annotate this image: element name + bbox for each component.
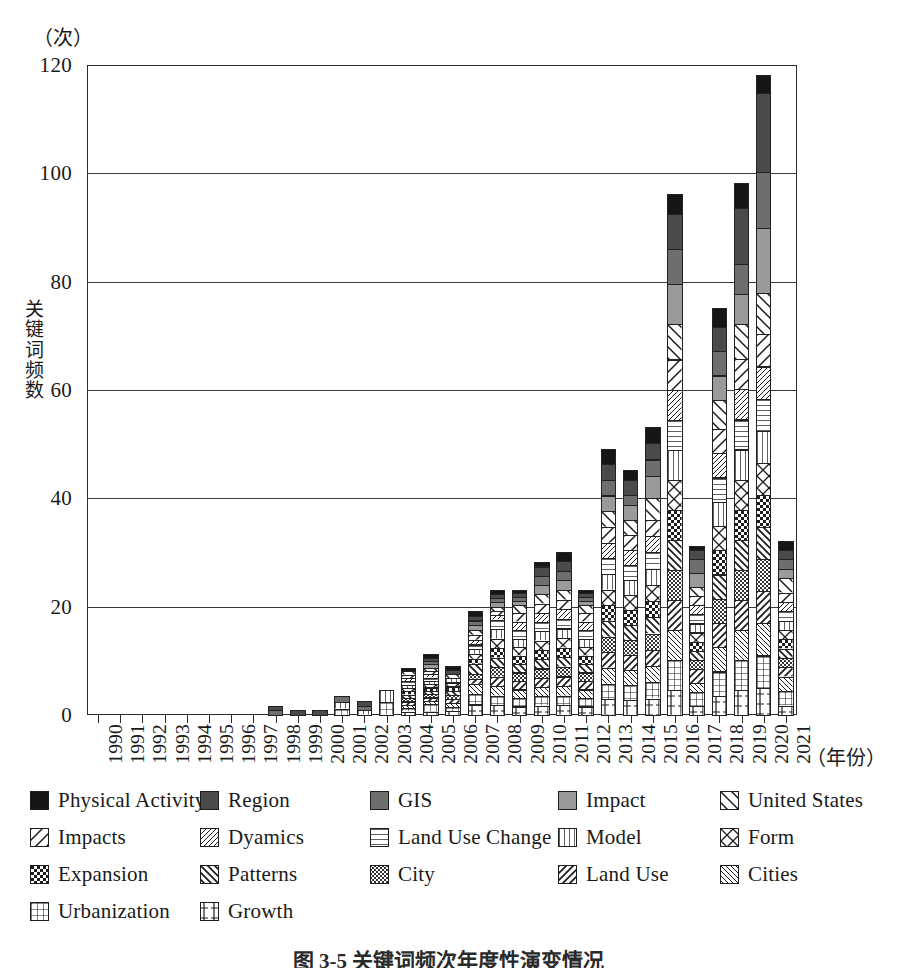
y-tick-label: 20 xyxy=(50,594,72,619)
legend-label: Dyamics xyxy=(228,825,304,850)
legend-item-city[interactable]: City xyxy=(370,862,435,887)
bar-segment xyxy=(667,360,683,391)
x-tick-label: 2013 xyxy=(615,724,637,764)
bar-segment xyxy=(667,570,683,601)
x-tick-label: 2009 xyxy=(527,724,549,764)
legend-label: Land Use Change xyxy=(398,825,551,850)
bar-segment xyxy=(645,460,661,477)
x-tick-label: 1994 xyxy=(194,724,216,764)
bar-segment xyxy=(645,476,661,499)
bar-2021 xyxy=(778,525,794,715)
bar-2015 xyxy=(645,412,661,715)
bar-segment xyxy=(712,429,728,454)
x-tick-label: 2004 xyxy=(416,724,438,764)
x-tick-mark xyxy=(675,715,676,723)
bar-segment xyxy=(601,464,617,481)
x-tick-label: 2000 xyxy=(327,724,349,764)
legend-item-expansion[interactable]: Expansion xyxy=(30,862,148,887)
legend-item-cities[interactable]: Cities xyxy=(720,862,798,887)
legend-item-patterns[interactable]: Patterns xyxy=(200,862,297,887)
legend-label: Growth xyxy=(228,899,293,924)
x-tick-mark xyxy=(764,715,765,723)
bar-segment xyxy=(689,692,705,707)
bar-segment xyxy=(601,668,617,685)
bar-2013 xyxy=(601,433,617,715)
bar-segment xyxy=(623,565,639,581)
legend-item-urbanization[interactable]: Urbanization xyxy=(30,899,170,924)
bar-segment xyxy=(645,699,661,716)
bar-2001 xyxy=(334,693,350,715)
legend-row: ExpansionPatternsCityLand UseCities xyxy=(30,856,870,893)
legend-item-land-use-change[interactable]: Land Use Change xyxy=(370,825,551,850)
plot-area xyxy=(87,65,797,715)
y-tick-label: 0 xyxy=(61,703,72,728)
legend-item-region[interactable]: Region xyxy=(200,788,290,813)
bars-layer xyxy=(87,65,797,715)
legend-swatch-icon xyxy=(720,791,739,810)
bar-segment xyxy=(601,480,617,497)
legend-item-united-states[interactable]: United States xyxy=(720,788,863,813)
bar-segment xyxy=(756,75,772,94)
bar-segment xyxy=(379,690,395,704)
legend-swatch-icon xyxy=(30,865,49,884)
bar-segment xyxy=(734,630,750,661)
bar-segment xyxy=(712,550,728,575)
legend-label: Region xyxy=(228,788,290,813)
legend-label: United States xyxy=(748,788,863,813)
x-tick-mark xyxy=(564,715,565,723)
x-tick-mark xyxy=(187,715,188,723)
x-tick-mark xyxy=(475,715,476,723)
x-tick-mark xyxy=(453,715,454,723)
bar-segment xyxy=(601,527,617,544)
legend-item-impact[interactable]: Impact xyxy=(558,788,646,813)
bar-segment xyxy=(756,293,772,335)
bar-2010 xyxy=(534,547,550,715)
x-tick-mark xyxy=(431,715,432,723)
x-tick-mark xyxy=(719,715,720,723)
figure-caption: 图 3-5 关键词频次年度性演变情况 xyxy=(0,944,897,968)
bar-2002 xyxy=(357,699,373,715)
legend-swatch-icon xyxy=(200,865,219,884)
bar-segment xyxy=(756,527,772,560)
bar-2007 xyxy=(468,596,484,715)
legend-swatch-icon xyxy=(200,791,219,810)
legend-item-gis[interactable]: GIS xyxy=(370,788,432,813)
bar-2016 xyxy=(667,179,683,715)
bar-segment xyxy=(712,478,728,503)
legend-swatch-icon xyxy=(30,828,49,847)
x-tick-label: 1996 xyxy=(238,724,260,764)
x-tick-mark xyxy=(608,715,609,723)
bar-segment xyxy=(623,520,639,536)
bar-segment xyxy=(667,510,683,541)
bar-segment xyxy=(756,93,772,173)
legend-swatch-icon xyxy=(370,828,389,847)
x-tick-label: 2001 xyxy=(349,724,371,764)
y-tick-label: 120 xyxy=(40,53,72,78)
legend-label: Land Use xyxy=(586,862,669,887)
bar-segment xyxy=(601,574,617,591)
bar-segment xyxy=(645,498,661,521)
bar-segment xyxy=(667,214,683,250)
legend-item-land-use[interactable]: Land Use xyxy=(558,862,669,887)
legend-item-form[interactable]: Form xyxy=(720,825,794,850)
legend-swatch-icon xyxy=(200,828,219,847)
bar-segment xyxy=(734,570,750,601)
legend-item-impacts[interactable]: Impacts xyxy=(30,825,126,850)
x-tick-label: 1992 xyxy=(149,724,171,764)
chart-legend: Physical ActivityRegionGISImpactUnited S… xyxy=(30,782,870,930)
x-tick-label: 2010 xyxy=(549,724,571,764)
legend-label: Impacts xyxy=(58,825,126,850)
legend-item-physical-activity[interactable]: Physical Activity xyxy=(30,788,205,813)
bar-segment xyxy=(734,389,750,420)
bar-2006 xyxy=(445,655,461,715)
bar-segment xyxy=(601,558,617,575)
legend-item-growth[interactable]: Growth xyxy=(200,899,293,924)
bar-segment xyxy=(645,443,661,460)
bar-segment xyxy=(712,575,728,600)
legend-item-model[interactable]: Model xyxy=(558,825,642,850)
x-tick-mark xyxy=(387,715,388,723)
bar-segment xyxy=(756,172,772,229)
bar-segment xyxy=(667,249,683,285)
x-tick-mark xyxy=(364,715,365,723)
legend-item-dyamics[interactable]: Dyamics xyxy=(200,825,304,850)
